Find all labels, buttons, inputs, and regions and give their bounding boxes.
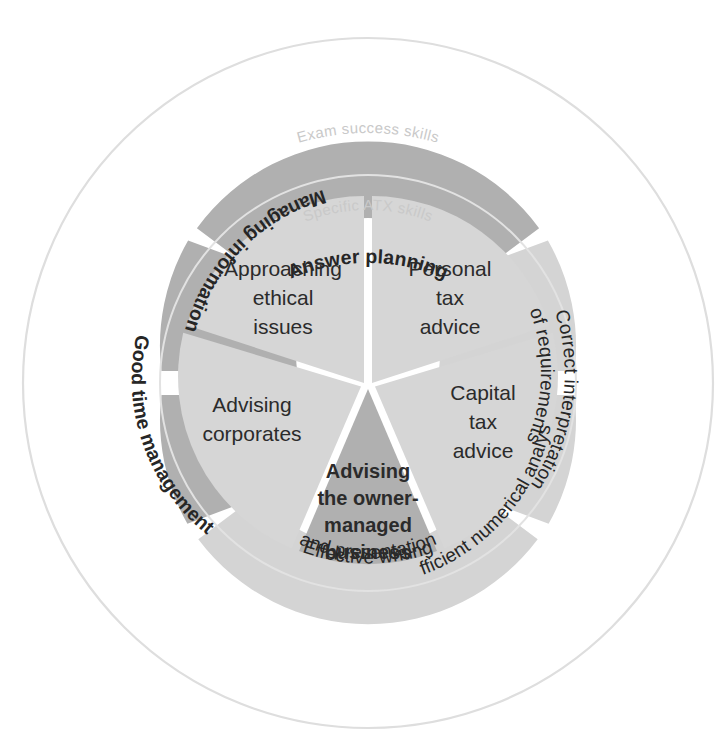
label-line: Capital: [450, 381, 515, 404]
label-line: Personal: [409, 257, 492, 280]
label-line: advice: [420, 315, 481, 338]
label-line: business: [325, 541, 412, 563]
label-line: managed: [324, 514, 412, 536]
label-line: tax: [436, 286, 465, 309]
label-line: Approaching: [224, 257, 342, 280]
label-line: ethical: [253, 286, 314, 309]
label-line: Advising: [212, 393, 291, 416]
skills-wheel-diagram: Exam success skills Specific ATX skills …: [0, 0, 721, 736]
label-line: corporates: [202, 422, 301, 445]
label-line: tax: [469, 410, 498, 433]
label-line: Advising: [326, 460, 410, 482]
label-line: issues: [253, 315, 313, 338]
label-line: the owner-: [317, 487, 418, 509]
label-line: advice: [453, 439, 514, 462]
skills-wheel-svg: Exam success skills Specific ATX skills …: [0, 0, 721, 736]
